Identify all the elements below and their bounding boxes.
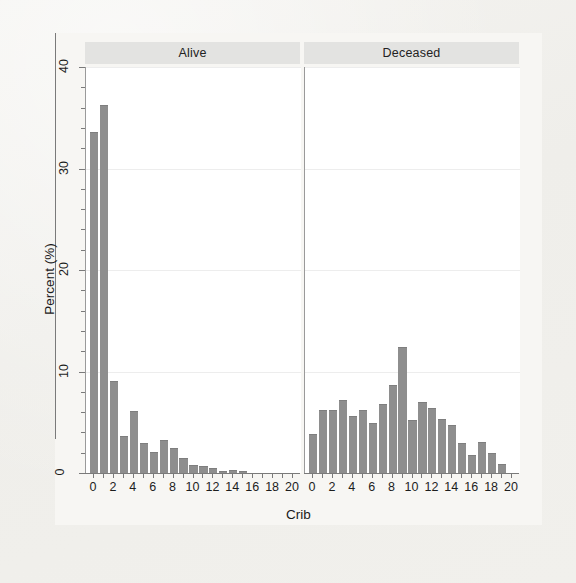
facet-strip-alive: Alive: [85, 42, 300, 64]
y-tick-minor: [81, 189, 85, 190]
x-tick-deceased: [421, 473, 422, 478]
x-tick-deceased: [461, 473, 462, 478]
bar: [448, 425, 456, 473]
bar: [140, 443, 148, 473]
x-tick-label-deceased: 20: [500, 480, 522, 494]
gridline-30: [86, 169, 301, 170]
bar: [199, 466, 207, 473]
x-tick-deceased: [362, 473, 363, 478]
bar: [100, 105, 108, 473]
x-tick-alive: [123, 473, 124, 478]
y-tick-major: [79, 270, 85, 271]
y-tick-label: 40: [57, 59, 71, 73]
x-tick-deceased: [322, 473, 323, 478]
bar: [379, 404, 387, 473]
facet-strip-alive-label: Alive: [178, 46, 206, 60]
bar: [120, 436, 128, 473]
x-tick-deceased: [312, 473, 313, 478]
bar: [418, 402, 426, 473]
x-tick-label-alive: 14: [221, 480, 243, 494]
y-tick-minor: [81, 453, 85, 454]
x-tick-label-deceased: 12: [420, 480, 442, 494]
x-tick-alive: [202, 473, 203, 478]
bar: [488, 453, 496, 473]
x-tick-alive: [222, 473, 223, 478]
y-tick-minor: [81, 290, 85, 291]
y-tick-minor: [81, 87, 85, 88]
y-tick-major: [79, 169, 85, 170]
x-tick-alive: [242, 473, 243, 478]
x-tick-deceased: [332, 473, 333, 478]
x-tick-deceased: [451, 473, 452, 478]
x-tick-alive: [163, 473, 164, 478]
y-tick-minor: [81, 331, 85, 332]
x-tick-label-deceased: 0: [301, 480, 323, 494]
x-tick-label-alive: 6: [142, 480, 164, 494]
y-tick-minor: [81, 250, 85, 251]
x-tick-alive: [143, 473, 144, 478]
bar: [150, 452, 158, 473]
x-tick-deceased: [342, 473, 343, 478]
gridline-10: [86, 372, 301, 373]
y-axis-line: [55, 33, 56, 439]
gridline-40: [305, 67, 520, 68]
x-tick-deceased: [431, 473, 432, 478]
x-tick-alive: [133, 473, 134, 478]
y-tick-major: [79, 372, 85, 373]
x-tick-label-deceased: 16: [460, 480, 482, 494]
x-tick-label-deceased: 14: [440, 480, 462, 494]
x-tick-label-deceased: 8: [381, 480, 403, 494]
bar: [408, 420, 416, 473]
bar: [478, 442, 486, 473]
x-tick-deceased: [372, 473, 373, 478]
y-tick-label: 20: [57, 262, 71, 276]
gridline-20: [86, 270, 301, 271]
x-tick-label-alive: 0: [82, 480, 104, 494]
y-tick-minor: [81, 128, 85, 129]
x-tick-alive: [282, 473, 283, 478]
x-tick-deceased: [382, 473, 383, 478]
gridline-40: [86, 67, 301, 68]
x-tick-deceased: [352, 473, 353, 478]
x-tick-label-alive: 10: [182, 480, 204, 494]
facet-strip-deceased-label: Deceased: [383, 46, 441, 60]
x-tick-alive: [252, 473, 253, 478]
panel-deceased-plot-area: [305, 67, 520, 473]
x-tick-alive: [183, 473, 184, 478]
x-tick-label-deceased: 6: [361, 480, 383, 494]
bar: [160, 440, 168, 473]
facet-strip-deceased: Deceased: [304, 42, 519, 64]
x-tick-label-alive: 16: [241, 480, 263, 494]
x-tick-deceased: [441, 473, 442, 478]
y-tick-minor: [81, 108, 85, 109]
x-tick-label-alive: 2: [102, 480, 124, 494]
x-tick-alive: [292, 473, 293, 478]
x-tick-deceased: [471, 473, 472, 478]
bar: [389, 385, 397, 473]
x-tick-label-deceased: 10: [401, 480, 423, 494]
x-tick-label-alive: 18: [261, 480, 283, 494]
x-tick-alive: [93, 473, 94, 478]
bar: [130, 411, 138, 473]
x-tick-label-alive: 4: [122, 480, 144, 494]
bar: [498, 464, 506, 473]
x-tick-label-deceased: 4: [341, 480, 363, 494]
x-tick-deceased: [511, 473, 512, 478]
x-tick-alive: [232, 473, 233, 478]
x-tick-alive: [212, 473, 213, 478]
x-tick-deceased: [412, 473, 413, 478]
gridline-20: [305, 270, 520, 271]
y-tick-minor: [81, 209, 85, 210]
y-axis-title: Percent (%): [42, 243, 57, 314]
bar: [398, 347, 406, 473]
y-tick-major: [79, 67, 85, 68]
bar: [179, 458, 187, 473]
x-tick-label-alive: 20: [281, 480, 303, 494]
y-tick-minor: [81, 432, 85, 433]
gridline-30: [305, 169, 520, 170]
y-tick-minor: [81, 311, 85, 312]
y-tick-label: 0: [53, 469, 67, 476]
x-tick-label-deceased: 18: [480, 480, 502, 494]
x-tick-deceased: [501, 473, 502, 478]
x-tick-alive: [103, 473, 104, 478]
